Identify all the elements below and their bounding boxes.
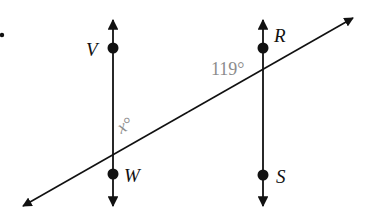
label-r: R [273, 25, 286, 46]
label-s: S [276, 166, 286, 187]
transversal-line [23, 18, 353, 206]
stray-dot [0, 33, 4, 37]
label-v: V [86, 39, 100, 60]
angle-label-119: 119° [211, 59, 245, 79]
point-w [108, 169, 119, 180]
geometry-diagram: V W R S 119° x° [0, 0, 369, 219]
point-r [258, 43, 269, 54]
angle-label-x: x° [113, 113, 137, 138]
label-w: W [124, 165, 142, 186]
point-s [258, 170, 269, 181]
point-v [108, 43, 119, 54]
